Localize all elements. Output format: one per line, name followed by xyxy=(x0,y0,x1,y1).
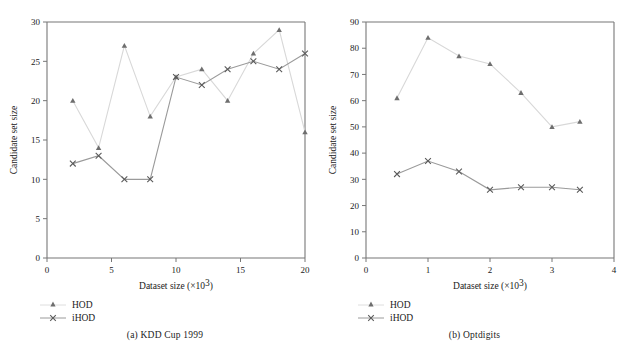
legend-item-hod: HOD xyxy=(40,298,95,311)
svg-text:20: 20 xyxy=(301,265,311,275)
plot-area-a: 05101520253005101520Dataset size (×103)C… xyxy=(0,0,318,300)
svg-text:3: 3 xyxy=(550,265,555,275)
plot-area-b: 010203040506070809001234Dataset size (×1… xyxy=(318,0,627,300)
legend-a: HOD iHOD xyxy=(40,298,95,324)
svg-text:0: 0 xyxy=(36,253,41,263)
svg-text:Candidate set size: Candidate set size xyxy=(9,106,19,175)
svg-text:4: 4 xyxy=(612,265,617,275)
svg-text:0: 0 xyxy=(364,265,369,275)
svg-text:0: 0 xyxy=(355,253,360,263)
svg-text:80: 80 xyxy=(350,43,360,53)
legend-item-ihod: iHOD xyxy=(40,311,95,324)
svg-text:10: 10 xyxy=(350,227,360,237)
svg-text:5: 5 xyxy=(36,214,41,224)
cross-marker-icon xyxy=(40,312,66,324)
legend-label-ihod: iHOD xyxy=(72,312,95,324)
triangle-marker-icon xyxy=(358,299,384,311)
figure-container: 05101520253005101520Dataset size (×103)C… xyxy=(0,0,627,352)
chart-panel-a: 05101520253005101520Dataset size (×103)C… xyxy=(0,0,318,352)
svg-text:20: 20 xyxy=(350,201,360,211)
svg-text:60: 60 xyxy=(350,96,360,106)
svg-text:1: 1 xyxy=(426,265,431,275)
svg-text:20: 20 xyxy=(31,96,41,106)
svg-text:15: 15 xyxy=(31,135,41,145)
svg-text:5: 5 xyxy=(109,265,114,275)
svg-text:Dataset size (×103): Dataset size (×103) xyxy=(139,278,213,292)
svg-text:10: 10 xyxy=(172,265,182,275)
legend-label-hod: HOD xyxy=(390,299,411,311)
svg-text:50: 50 xyxy=(350,122,360,132)
cross-marker-icon xyxy=(358,312,384,324)
triangle-marker-icon xyxy=(40,299,66,311)
caption-a: (a) KDD Cup 1999 xyxy=(6,330,324,340)
legend-label-hod: HOD xyxy=(72,299,93,311)
svg-text:15: 15 xyxy=(236,265,246,275)
svg-text:40: 40 xyxy=(350,148,360,158)
svg-text:0: 0 xyxy=(45,265,50,275)
svg-text:Dataset size (×103): Dataset size (×103) xyxy=(453,278,527,292)
legend-item-ihod: iHOD xyxy=(358,311,413,324)
chart-panel-b: 010203040506070809001234Dataset size (×1… xyxy=(318,0,627,352)
svg-text:Candidate set size: Candidate set size xyxy=(328,106,338,175)
svg-text:30: 30 xyxy=(350,175,360,185)
legend-item-hod: HOD xyxy=(358,298,413,311)
caption-b: (b) Optdigits xyxy=(320,330,627,340)
svg-text:70: 70 xyxy=(350,70,360,80)
svg-text:2: 2 xyxy=(488,265,493,275)
legend-b: HOD iHOD xyxy=(358,298,413,324)
svg-text:30: 30 xyxy=(31,17,41,27)
legend-label-ihod: iHOD xyxy=(390,312,413,324)
svg-text:10: 10 xyxy=(31,175,41,185)
svg-text:90: 90 xyxy=(350,17,360,27)
svg-text:25: 25 xyxy=(31,57,41,67)
